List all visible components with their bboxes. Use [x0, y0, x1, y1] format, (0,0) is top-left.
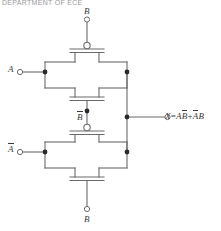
a-input-terminal-circle	[17, 69, 22, 74]
circuit-diagram-figure: DEPARTMENT OF ECE	[0, 0, 221, 231]
eq-b2: B	[198, 111, 204, 121]
abar-input-terminal-circle	[17, 149, 22, 154]
junction-dot	[43, 70, 48, 75]
label-a-bar-input: A	[8, 144, 14, 154]
output-junction-dot	[125, 115, 130, 120]
bottom-b-terminal-circle	[84, 206, 89, 211]
lower-pmos-channel	[45, 135, 127, 153]
junction-dot	[125, 150, 130, 155]
eq-a-bar: A	[193, 111, 199, 121]
label-b-bottom: B	[84, 214, 90, 224]
top-b-terminal-circle	[84, 17, 89, 22]
label-b-bar-middle: B	[77, 112, 83, 122]
eq-b-bar: B	[182, 111, 188, 121]
lower-pmos-bubble-icon	[84, 124, 90, 130]
upper-nmos-channel	[45, 72, 127, 97]
bbar-junction-dot	[85, 109, 90, 114]
label-b-top: B	[84, 6, 90, 16]
upper-pmos-bubble-icon	[84, 42, 90, 48]
junction-dot	[125, 70, 130, 75]
label-a-input: A	[8, 64, 14, 74]
output-equation: X=AB+AB	[165, 111, 204, 121]
output-bus-wire	[127, 72, 165, 152]
lower-nmos-channel	[45, 152, 127, 177]
junction-dot	[43, 150, 48, 155]
upper-pmos-channel	[45, 53, 127, 73]
